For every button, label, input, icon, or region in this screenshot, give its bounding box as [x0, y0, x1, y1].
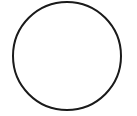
diagram-svg [0, 0, 137, 116]
diagram-canvas [0, 0, 137, 116]
circle-outline [13, 2, 121, 110]
